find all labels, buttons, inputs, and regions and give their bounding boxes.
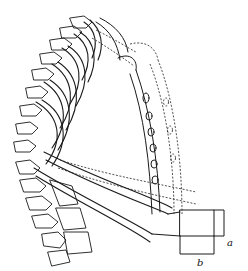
label-b: b <box>197 257 203 268</box>
sternum-dashed <box>58 30 196 214</box>
vertebral-column <box>14 16 92 266</box>
label-a: a <box>227 237 233 248</box>
sternum-end-boxes <box>152 210 224 254</box>
thorax-illustration: a b <box>0 0 248 271</box>
